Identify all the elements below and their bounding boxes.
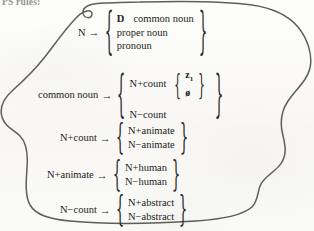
determiner-label: D (117, 13, 125, 24)
inner-brace-right-icon: } (198, 70, 205, 97)
rule-common-noun-rhs: N+count { z1 ø } N−count (128, 68, 209, 122)
rule-n-minus-count: N−count → { N+abstract N−abstract } (60, 196, 188, 223)
brace-right-icon: } (199, 7, 208, 57)
rule-common-noun-option-2: N−count (130, 108, 207, 122)
rule-n-plus-count-option-2: N−animate (128, 138, 175, 152)
inner-option-z: z1 (185, 68, 193, 86)
rule-common-noun-arrow: → (100, 89, 116, 101)
brace-left-icon: { (116, 120, 125, 156)
rule-n-plus-animate-lhs: N+animate (47, 169, 96, 180)
inner-option-null: ø (185, 86, 193, 99)
rule-n-minus-count-option-1: N+abstract (128, 196, 174, 210)
rule-n-plus-animate-arrow: → (96, 169, 112, 181)
brace-left-icon: { (116, 192, 125, 228)
rule-n-plus-animate-rhs: N+human N−human (123, 161, 169, 188)
rule-n-arrow: → (88, 26, 104, 38)
rule-n-plus-count: N+count → { N+animate N−animate } (60, 124, 189, 151)
ps-rules-list: N → { Dcommon noun proper noun pronoun }… (0, 0, 314, 231)
rule-n: N → { Dcommon noun proper noun pronoun } (78, 12, 208, 53)
rule-n-plus-animate-option-1: N+human (125, 161, 167, 175)
inner-options: z1 ø (183, 68, 195, 99)
rule-n-minus-count-arrow: → (99, 204, 115, 216)
rule-common-noun-lhs: common noun (38, 89, 100, 100)
rule-n-option-2: proper noun (117, 26, 194, 40)
rule-n-option-1: Dcommon noun (117, 12, 194, 26)
inner-brace-left-icon: { (174, 70, 181, 97)
brace-left-icon: { (104, 7, 113, 57)
rule-n-minus-count-rhs: N+abstract N−abstract (126, 196, 176, 223)
rule-n-plus-animate-option-2: N−human (125, 175, 167, 189)
rule-n-option-3: pronoun (117, 39, 194, 53)
rule-n-option-1-text: common noun (133, 13, 193, 24)
brace-right-icon: } (179, 192, 188, 228)
rule-n-minus-count-option-2: N−abstract (128, 210, 174, 224)
inner-option-z-subscript: 1 (190, 75, 194, 83)
rule-n-lhs: N (78, 27, 88, 38)
rule-n-plus-animate: N+animate → { N+human N−human } (47, 161, 181, 188)
rule-n-plus-count-option-1: N+animate (128, 124, 175, 138)
rule-common-noun-option-1: N+count (130, 77, 167, 91)
rule-n-rhs: Dcommon noun proper noun pronoun (115, 12, 196, 53)
rule-common-noun-option-1-row: N+count { z1 ø } (130, 68, 207, 99)
rule-n-plus-count-arrow: → (99, 132, 115, 144)
rule-n-minus-count-lhs: N−count (60, 204, 99, 215)
determiner-inner-group: { z1 ø } (173, 68, 206, 99)
brace-right-icon: } (180, 120, 189, 156)
rule-n-plus-count-lhs: N+count (60, 132, 99, 143)
brace-right-icon: } (215, 70, 224, 120)
rule-n-plus-count-rhs: N+animate N−animate (126, 124, 177, 151)
rule-common-noun: common noun → { N+count { z1 ø } N−count (38, 68, 224, 122)
brace-left-icon: { (117, 70, 126, 120)
document-page: PS rules: N → { Dcommon noun proper noun… (0, 0, 314, 231)
